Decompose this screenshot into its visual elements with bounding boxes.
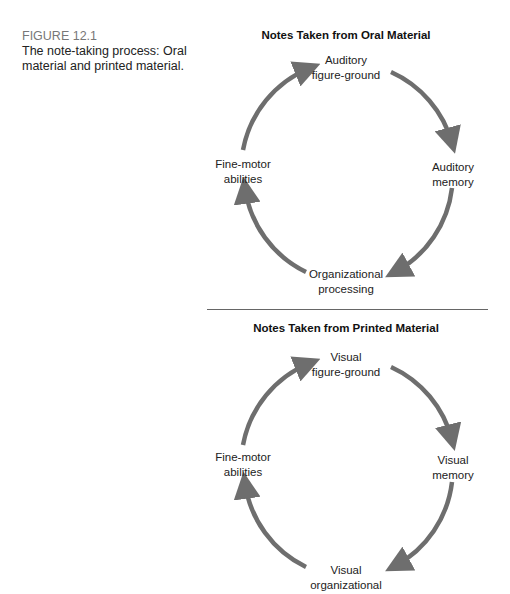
node-line: Visual — [291, 350, 401, 365]
arrow-right-to-bottom-2 — [395, 482, 452, 566]
node-organizational-processing: Organizational processing — [291, 267, 401, 297]
node-line: Auditory — [291, 53, 401, 68]
diagram-title-printed: Notes Taken from Printed Material — [216, 322, 476, 334]
node-line: figure-ground — [291, 365, 401, 380]
node-line: memory — [398, 175, 508, 190]
node-auditory-figure-ground: Auditory figure-ground — [291, 53, 401, 83]
node-line: memory — [398, 468, 508, 483]
node-line: organizational — [291, 578, 401, 593]
arrow-right-to-bottom — [395, 188, 452, 272]
arrow-bottom-to-left — [245, 188, 306, 272]
node-line: abilities — [188, 465, 298, 480]
arrow-bottom-to-left-2 — [245, 483, 306, 567]
node-line: Organizational — [291, 267, 401, 282]
node-line: Auditory — [398, 160, 508, 175]
node-line: Fine-motor — [188, 450, 298, 465]
node-auditory-memory: Auditory memory — [398, 160, 508, 190]
node-visual-figure-ground: Visual figure-ground — [291, 350, 401, 380]
diagram-title-oral: Notes Taken from Oral Material — [216, 29, 476, 41]
node-visual-memory: Visual memory — [398, 453, 508, 483]
node-fine-motor-abilities-2: Fine-motor abilities — [188, 450, 298, 480]
node-line: Visual — [291, 563, 401, 578]
cycle-arrows — [0, 0, 510, 594]
node-fine-motor-abilities: Fine-motor abilities — [188, 157, 298, 187]
node-line: abilities — [188, 172, 298, 187]
section-divider — [207, 309, 488, 310]
node-visual-organizational: Visual organizational — [291, 563, 401, 593]
node-line: Fine-motor — [188, 157, 298, 172]
node-line: Visual — [398, 453, 508, 468]
node-line: processing — [291, 282, 401, 297]
node-line: figure-ground — [291, 68, 401, 83]
